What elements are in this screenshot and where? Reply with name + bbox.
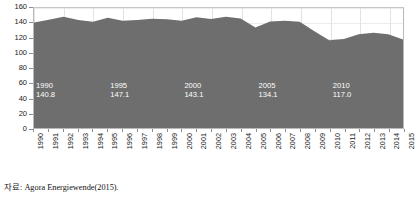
x-tick-mark [389, 129, 390, 132]
annotation-year: 2000 [184, 81, 203, 90]
x-tick-mark [330, 129, 331, 132]
x-tick-mark [33, 129, 34, 132]
x-tick-label: 1991 [51, 133, 60, 149]
x-tick-mark [48, 129, 49, 132]
x-tick-mark [92, 129, 93, 132]
annotation-value: 118.0 [407, 90, 419, 99]
value-annotation: 1995147.1 [110, 81, 129, 99]
value-annotation: 2010117.0 [333, 81, 351, 99]
x-tick-mark [315, 129, 316, 132]
x-tick-label: 1990 [36, 133, 45, 149]
value-annotation: 1990140.8 [36, 81, 55, 99]
value-annotation: 2005134.1 [259, 81, 278, 99]
y-tick-label: 60 [19, 79, 27, 87]
annotation-value: 117.0 [333, 90, 351, 99]
x-tick-label: 2015 [407, 133, 416, 149]
x-tick-label: 2011 [348, 133, 357, 149]
x-tick-label: 1998 [155, 133, 164, 149]
x-tick-label: 2001 [199, 133, 208, 149]
x-tick-label: 2004 [244, 133, 253, 149]
x-tick-mark [226, 129, 227, 132]
x-tick-mark [78, 129, 79, 132]
x-tick-mark [345, 129, 346, 132]
area-series [34, 8, 403, 128]
x-tick-mark [374, 129, 375, 132]
plot-frame [33, 7, 404, 129]
annotation-year: 2010 [333, 81, 351, 90]
y-tick-label: 40 [19, 95, 27, 103]
x-tick-mark [137, 129, 138, 132]
x-tick-label: 2000 [185, 133, 194, 149]
x-tick-label: 1996 [125, 133, 134, 149]
x-tick-label: 1999 [170, 133, 179, 149]
x-tick-label: 2008 [303, 133, 312, 149]
plot-area [33, 7, 404, 129]
y-axis: 020406080100120140160 [0, 7, 33, 129]
x-tick-label: 1997 [140, 133, 149, 149]
source-footnote: 자료: Agora Energiewende(2015). [4, 180, 119, 192]
y-tick-label: 0 [23, 125, 27, 133]
x-tick-mark [211, 129, 212, 132]
annotation-year: 1995 [110, 81, 129, 90]
value-annotation: 2000143.1 [184, 81, 203, 99]
value-annotation: 2015118.0 [407, 81, 419, 99]
x-tick-label: 2002 [214, 133, 223, 149]
x-tick-mark [63, 129, 64, 132]
annotation-year: 2015 [407, 81, 419, 90]
x-tick-mark [300, 129, 301, 132]
x-tick-label: 2007 [288, 133, 297, 149]
x-tick-mark [196, 129, 197, 132]
x-tick-mark [404, 129, 405, 132]
y-tick-label: 120 [14, 34, 27, 42]
x-axis: 1990199119921993199419951996199719981999… [33, 129, 404, 171]
annotation-value: 134.1 [259, 90, 278, 99]
x-tick-label: 2005 [259, 133, 268, 149]
x-tick-label: 2010 [333, 133, 342, 149]
x-tick-label: 2003 [229, 133, 238, 149]
x-tick-label: 1994 [96, 133, 105, 149]
x-tick-label: 1992 [66, 133, 75, 149]
x-tick-mark [285, 129, 286, 132]
x-tick-mark [241, 129, 242, 132]
x-tick-mark [152, 129, 153, 132]
y-tick-label: 140 [14, 18, 27, 26]
x-tick-mark [167, 129, 168, 132]
annotation-year: 1990 [36, 81, 55, 90]
y-tick-label: 20 [19, 110, 27, 118]
x-tick-mark [107, 129, 108, 132]
x-tick-mark [270, 129, 271, 132]
x-tick-label: 2012 [363, 133, 372, 149]
x-tick-mark [256, 129, 257, 132]
x-tick-label: 2009 [318, 133, 327, 149]
x-tick-label: 2013 [378, 133, 387, 149]
x-tick-mark [359, 129, 360, 132]
x-tick-mark [122, 129, 123, 132]
x-tick-label: 2014 [392, 133, 401, 149]
y-tick-label: 100 [14, 49, 27, 57]
x-tick-label: 1993 [81, 133, 90, 149]
annotation-value: 140.8 [36, 90, 55, 99]
annotation-value: 147.1 [110, 90, 129, 99]
x-tick-label: 1995 [110, 133, 119, 149]
y-tick-label: 160 [14, 3, 27, 11]
x-tick-mark [181, 129, 182, 132]
x-tick-label: 2006 [274, 133, 283, 149]
annotation-value: 143.1 [184, 90, 203, 99]
annotation-year: 2005 [259, 81, 278, 90]
y-tick-label: 80 [19, 64, 27, 72]
